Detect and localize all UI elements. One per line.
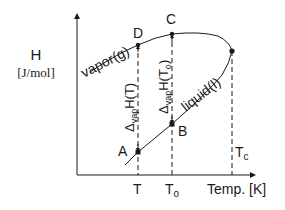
point-B (170, 122, 175, 127)
delta-vap-H-T-label: ΔvapH(T) (122, 83, 139, 132)
Tc-label: Tc (235, 144, 249, 162)
y-axis-unit: [J/mol] (17, 65, 55, 80)
label-D: D (133, 25, 143, 41)
liquid-curve (125, 51, 232, 165)
x-tick-To: To (165, 181, 180, 199)
delta-vap-H-To-label: ΔvapH(To) (156, 60, 173, 114)
label-B: B (178, 123, 187, 139)
point-C (170, 32, 174, 36)
liquid-label: liquid(l) (178, 74, 223, 114)
point-A (136, 150, 141, 155)
y-axis-label: H (31, 46, 42, 63)
critical-point (229, 48, 234, 53)
point-D (136, 43, 140, 47)
x-axis-label: Temp. [K] (207, 181, 266, 197)
vapor-label: vapor(g) (78, 43, 132, 81)
x-tick-T: T (133, 181, 142, 197)
enthalpy-temperature-diagram: H [J/mol] D C B A vapor(g) liquid(l) Δva… (0, 0, 285, 210)
label-C: C (166, 11, 176, 27)
label-A: A (118, 143, 128, 159)
